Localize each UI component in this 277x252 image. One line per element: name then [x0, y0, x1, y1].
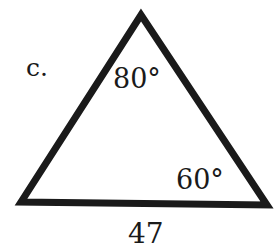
problem-label: c.: [26, 53, 48, 82]
angle-top: 80°: [113, 63, 161, 94]
angle-bottom-right: 60°: [176, 164, 224, 195]
triangle: [21, 15, 267, 205]
triangle-diagram: c. 80° 60° 47: [0, 0, 277, 252]
side-bottom-length: 47: [128, 217, 164, 250]
